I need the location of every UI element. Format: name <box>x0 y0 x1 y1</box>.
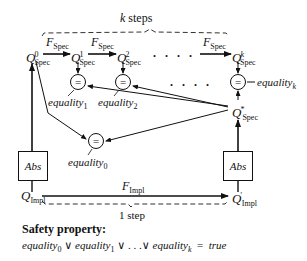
k-steps-brace <box>42 29 229 36</box>
safety-title: Safety property: <box>22 223 106 235</box>
q-spec-1: Q1Spec <box>71 49 95 69</box>
equality-2-label: equality2 <box>98 96 137 113</box>
equality-circle-0: = <box>88 133 104 149</box>
equality-k-label: equalityk <box>257 76 296 93</box>
q-spec-k: QkSpec <box>232 49 256 69</box>
ellipsis-top: . . . . <box>153 47 195 59</box>
one-step-label: 1 step <box>119 209 145 221</box>
fimpl-label: FImpl <box>122 180 144 197</box>
equality-circle-2: = <box>115 74 131 90</box>
ellipsis-mid: . . . . <box>170 76 212 88</box>
q-spec-star: Q*Spec <box>232 104 258 124</box>
one-step-brace <box>42 201 228 207</box>
q-spec-0: Q0Spec <box>26 49 50 69</box>
equality-circle-1: = <box>70 74 86 90</box>
abs-box-right: Abs <box>223 151 253 181</box>
q-impl: QImpl <box>21 190 46 207</box>
q-impl-prime: Q'Impl <box>232 190 257 210</box>
fspec-label-k: FSpec <box>203 36 226 53</box>
equality-circle-k: = <box>230 74 246 90</box>
equality-1-label: equality1 <box>48 96 87 113</box>
equality-0-label: equality0 <box>68 156 107 173</box>
q-spec-2: Q2Spec <box>117 49 141 69</box>
abs-box-left: Abs <box>18 151 48 181</box>
safety-formula: equality0 ∨ equality1 ∨ . . .∨ equalityk… <box>22 239 227 256</box>
k-steps-label: k steps <box>120 12 152 24</box>
